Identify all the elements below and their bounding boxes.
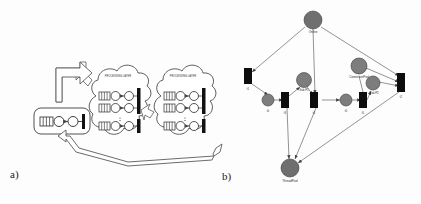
transition-t3 — [281, 92, 289, 108]
label-p-t0: t0 — [267, 109, 270, 113]
cloud1-row-1 — [99, 92, 137, 101]
label-tr-t5: t5 — [362, 111, 365, 115]
place-online — [304, 11, 322, 29]
place-threadpool — [281, 159, 299, 177]
block-arrow-return — [58, 130, 222, 166]
place-connectionpool — [351, 58, 367, 74]
place-sub-p1 — [297, 73, 312, 88]
figure-canvas: PROCESSING LAYER — [0, 0, 421, 204]
transition-t1 — [244, 68, 252, 84]
label-tr-t2: t2 — [400, 95, 403, 99]
transition-t5 — [359, 92, 367, 108]
label-online: Online — [309, 30, 318, 34]
processing-cloud-2: PROCESSING LAYER — [154, 65, 216, 134]
queue-icon — [40, 117, 53, 126]
cloud2-row-1 — [164, 92, 202, 101]
cloud2-title: PROCESSING LAYER — [170, 74, 196, 78]
transition-bar — [137, 88, 141, 114]
cloud1-title: PROCESSING LAYER — [105, 74, 131, 78]
petri-edges — [252, 27, 399, 163]
label-sub-p1: Sub-P1 — [299, 88, 309, 92]
label-threadpool: ThreadPool — [282, 179, 298, 183]
panel-a: PROCESSING LAYER — [34, 62, 222, 166]
transition-t4 — [310, 92, 318, 108]
label-p-t0b: t0 — [345, 109, 348, 113]
label-tr-t4: t4 — [313, 111, 316, 115]
processing-cloud-1: PROCESSING LAYER — [89, 65, 151, 134]
label-tr-t3: t3 — [284, 111, 287, 115]
panel-b: Online t0 Sub-P1 t0 ConnectionPool Sub-P… — [244, 11, 405, 183]
block-arrow-in — [56, 62, 92, 102]
client-box — [34, 108, 90, 134]
place-t0b — [340, 94, 352, 106]
label-sub-p2: Sub-P2 — [369, 91, 379, 95]
place-t0 — [262, 94, 274, 106]
label-tr-t1: t1 — [247, 87, 250, 91]
transition-t2 — [397, 73, 405, 92]
label-connectionpool: ConnectionPool — [349, 75, 369, 79]
figure-root: PROCESSING LAYER — [0, 0, 421, 204]
panel-label-a: a) — [10, 168, 19, 180]
cloud1-row-2 — [99, 104, 137, 113]
cloud2-row-2 — [164, 104, 202, 113]
panel-label-b: b) — [222, 170, 231, 182]
